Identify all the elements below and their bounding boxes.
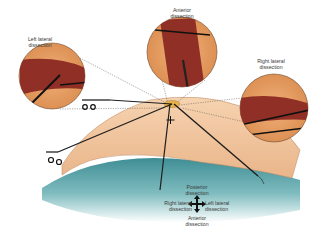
label-right-lateral: Right lateral dissection — [248, 58, 294, 70]
inset-right-lateral — [240, 74, 310, 142]
inset-anterior — [147, 17, 217, 90]
label-left-lateral: Left lateral dissection — [20, 36, 60, 48]
compass-top-label: Posterior dissection — [176, 184, 218, 196]
label-anterior: Anterior dissection — [162, 7, 202, 19]
compass-bottom-label: Anterior dissection — [176, 215, 218, 227]
scissor-handle-left-icon — [46, 152, 62, 165]
scissor-handle-upper-icon — [82, 100, 110, 109]
inset-left-lateral — [19, 43, 90, 110]
surgical-diagram: Left lateral dissection Anterior dissect… — [0, 0, 312, 241]
compass-right-label: Left lateral dissection — [205, 200, 241, 212]
compass-left-label: Right lateral dissection — [154, 200, 192, 212]
